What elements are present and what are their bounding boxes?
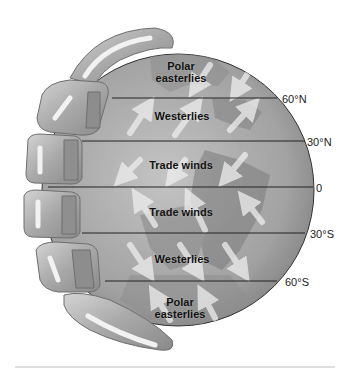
label-westerlies-south: Westerlies: [155, 253, 210, 265]
south-hadley-cell: [24, 190, 80, 238]
label-westerlies-north: Westerlies: [155, 110, 210, 122]
label-polar-easterlies-north: Polar easterlies: [156, 60, 207, 84]
label-trade-winds-south: Trade winds: [149, 206, 213, 218]
label-line: easterlies: [156, 72, 207, 84]
wind-circulation-diagram: Polar easterlies Westerlies Trade winds …: [0, 0, 349, 378]
label-line: easterlies: [155, 308, 206, 320]
latitude-label-equator: 0: [316, 182, 322, 194]
label-line: Polar: [156, 60, 207, 72]
label-polar-easterlies-south: Polar easterlies: [155, 296, 206, 320]
south-ferrel-cell: [36, 242, 100, 292]
latitude-label-30s: 30°S: [310, 228, 334, 240]
globe-illustration: [0, 0, 349, 378]
latitude-label-60n: 60°N: [282, 93, 307, 105]
north-hadley-cell: [26, 134, 82, 184]
latitude-label-60s: 60°S: [285, 276, 309, 288]
label-line: Polar: [155, 296, 206, 308]
latitude-label-30n: 30°N: [307, 136, 332, 148]
north-ferrel-cell: [37, 80, 108, 135]
label-trade-winds-north: Trade winds: [149, 159, 213, 171]
